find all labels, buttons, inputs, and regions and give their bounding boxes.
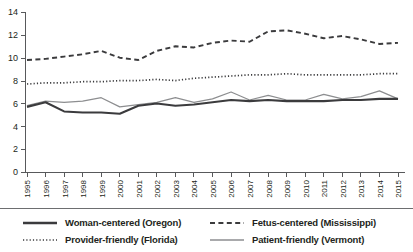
solid-thick-line-icon bbox=[22, 218, 58, 228]
y-tick-label: 2 bbox=[13, 144, 18, 154]
y-tick-label: 6 bbox=[13, 99, 18, 109]
y-tick-label: 8 bbox=[13, 76, 18, 86]
series-group bbox=[27, 30, 398, 113]
x-tick-label: 2015 bbox=[394, 179, 403, 197]
line-chart-figure: 02468101214 1995199619971998199920002001… bbox=[0, 0, 413, 252]
x-tick-label: 1995 bbox=[23, 179, 32, 197]
series-line-provider-friendly-florida bbox=[27, 74, 398, 84]
x-tick-label: 1997 bbox=[61, 179, 70, 197]
x-tick-label: 2002 bbox=[153, 179, 162, 197]
legend-label: Fetus-centered (Mississippi) bbox=[252, 218, 376, 228]
x-tick-label: 2014 bbox=[376, 179, 385, 197]
legend-label: Provider-friendly (Florida) bbox=[65, 235, 178, 245]
y-tick-label: 12 bbox=[8, 30, 18, 40]
x-tick-label: 2003 bbox=[172, 179, 181, 197]
legend-item-woman-centered-oregon: Woman-centered (Oregon) bbox=[22, 214, 209, 231]
chart-legend: Woman-centered (Oregon) Fetus-centered (… bbox=[0, 208, 413, 252]
x-tick-label: 2001 bbox=[135, 179, 144, 197]
x-tick-label: 2007 bbox=[246, 179, 255, 197]
y-tick-label: 10 bbox=[8, 53, 18, 63]
x-tick-label: 2006 bbox=[227, 179, 236, 197]
legend-item-patient-friendly-vermont: Patient-friendly (Vermont) bbox=[209, 231, 409, 248]
x-tick-label: 1996 bbox=[42, 179, 51, 197]
y-tick-label: 14 bbox=[8, 7, 18, 17]
series-line-fetus-centered-mississippi bbox=[27, 30, 398, 60]
series-line-patient-friendly-vermont bbox=[27, 91, 398, 107]
solid-thin-line-icon bbox=[209, 235, 245, 245]
x-tick-label: 1998 bbox=[79, 179, 88, 197]
chart-plot-area: 02468101214 1995199619971998199920002001… bbox=[0, 0, 413, 210]
y-tick-label: 0 bbox=[13, 167, 18, 177]
x-tick-label: 2008 bbox=[265, 179, 274, 197]
legend-item-provider-friendly-florida: Provider-friendly (Florida) bbox=[22, 231, 209, 248]
x-tick-label: 2013 bbox=[357, 179, 366, 197]
y-tick-label: 4 bbox=[13, 122, 18, 132]
x-tick-label: 2004 bbox=[190, 179, 199, 197]
legend-label: Woman-centered (Oregon) bbox=[65, 218, 181, 228]
x-tick-group: 1995199619971998199920002001200220032004… bbox=[23, 173, 403, 198]
dashed-line-icon bbox=[209, 218, 245, 228]
legend-item-fetus-centered-mississippi: Fetus-centered (Mississippi) bbox=[209, 214, 409, 231]
x-tick-label: 2011 bbox=[320, 179, 329, 197]
x-tick-label: 2010 bbox=[302, 179, 311, 197]
dotted-line-icon bbox=[22, 235, 58, 245]
x-tick-label: 2005 bbox=[209, 179, 218, 197]
x-tick-label: 2000 bbox=[116, 179, 125, 197]
x-tick-label: 2009 bbox=[283, 179, 292, 197]
x-tick-label: 1999 bbox=[98, 179, 107, 197]
legend-label: Patient-friendly (Vermont) bbox=[252, 235, 364, 245]
y-tick-group: 02468101214 bbox=[8, 7, 26, 177]
x-tick-label: 2012 bbox=[339, 179, 348, 197]
